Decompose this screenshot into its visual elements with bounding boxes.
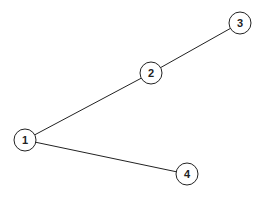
edge-1-2 bbox=[25, 73, 151, 140]
node-label: 1 bbox=[22, 134, 28, 146]
node-label: 3 bbox=[237, 17, 243, 29]
edge-2-3 bbox=[151, 23, 240, 73]
graph-diagram: 1234 bbox=[0, 0, 268, 199]
node-label: 4 bbox=[184, 168, 191, 180]
node-label: 2 bbox=[148, 67, 154, 79]
edge-1-4 bbox=[25, 140, 187, 174]
nodes-layer: 1234 bbox=[14, 12, 251, 185]
node-2: 2 bbox=[140, 62, 162, 84]
node-3: 3 bbox=[229, 12, 251, 34]
node-4: 4 bbox=[176, 163, 198, 185]
edges-layer bbox=[25, 23, 240, 174]
node-1: 1 bbox=[14, 129, 36, 151]
